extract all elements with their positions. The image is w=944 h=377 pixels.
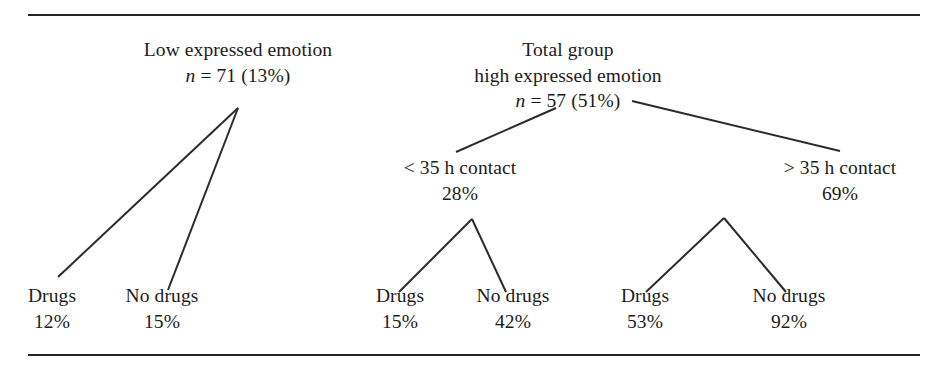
node-low-ee-sample: n = 71 (13%) bbox=[144, 66, 332, 86]
leaf-lt35-no-drugs: No drugs42% bbox=[477, 286, 550, 331]
leaf-value: 42% bbox=[477, 312, 550, 332]
leaf-low-ee-drugs: Drugs12% bbox=[28, 286, 76, 331]
node-total-group-high-expressed-emotion: Total group high expressed emotion n = 5… bbox=[474, 40, 661, 111]
leaf-label: Drugs bbox=[28, 286, 76, 306]
connector-gt35-to-no-drugs bbox=[724, 218, 786, 292]
italic-n: n bbox=[186, 65, 196, 86]
node-low-ee-title: Low expressed emotion bbox=[144, 40, 332, 60]
node-total-group-sample: n = 57 (51%) bbox=[474, 91, 661, 111]
connector-lt35-to-drugs bbox=[399, 219, 472, 292]
node-contact-gt35-value: 69% bbox=[784, 184, 897, 204]
node-total-group-subtitle: high expressed emotion bbox=[474, 66, 661, 86]
node-total-group-title: Total group bbox=[474, 40, 661, 60]
node-low-ee-sample-value: = 71 (13%) bbox=[195, 65, 290, 86]
connector-lt35-to-no-drugs bbox=[472, 219, 506, 292]
connector-low-ee-to-no-drugs bbox=[168, 108, 238, 290]
leaf-lt35-drugs: Drugs15% bbox=[376, 286, 424, 331]
leaf-low-ee-no-drugs: No drugs15% bbox=[126, 286, 199, 331]
leaf-value: 53% bbox=[621, 312, 669, 332]
leaf-label: Drugs bbox=[621, 286, 669, 306]
leaf-value: 92% bbox=[753, 312, 826, 332]
leaf-value: 15% bbox=[376, 312, 424, 332]
tree-diagram-figure: Low expressed emotion n = 71 (13%) Total… bbox=[0, 0, 944, 377]
node-total-group-sample-value: = 57 (51%) bbox=[525, 90, 620, 111]
leaf-gt35-drugs: Drugs53% bbox=[621, 286, 669, 331]
connector-gt35-to-drugs bbox=[646, 218, 724, 292]
leaf-label: Drugs bbox=[376, 286, 424, 306]
node-contact-less-than-35h: < 35 h contact 28% bbox=[404, 158, 517, 203]
connector-low-ee-to-drugs bbox=[58, 108, 238, 277]
leaf-gt35-no-drugs: No drugs92% bbox=[753, 286, 826, 331]
bottom-rule bbox=[28, 354, 920, 356]
leaf-label: No drugs bbox=[126, 286, 199, 306]
node-contact-lt35-value: 28% bbox=[404, 184, 517, 204]
connector-total-to-gt35 bbox=[632, 101, 840, 151]
italic-n: n bbox=[516, 90, 526, 111]
node-low-expressed-emotion: Low expressed emotion n = 71 (13%) bbox=[144, 40, 332, 85]
node-contact-greater-than-35h: > 35 h contact 69% bbox=[784, 158, 897, 203]
node-contact-lt35-label: < 35 h contact bbox=[404, 158, 517, 178]
leaf-label: No drugs bbox=[753, 286, 826, 306]
connector-total-to-lt35 bbox=[456, 108, 556, 152]
leaf-value: 12% bbox=[28, 312, 76, 332]
top-rule bbox=[28, 14, 920, 16]
node-contact-gt35-label: > 35 h contact bbox=[784, 158, 897, 178]
leaf-label: No drugs bbox=[477, 286, 550, 306]
leaf-value: 15% bbox=[126, 312, 199, 332]
